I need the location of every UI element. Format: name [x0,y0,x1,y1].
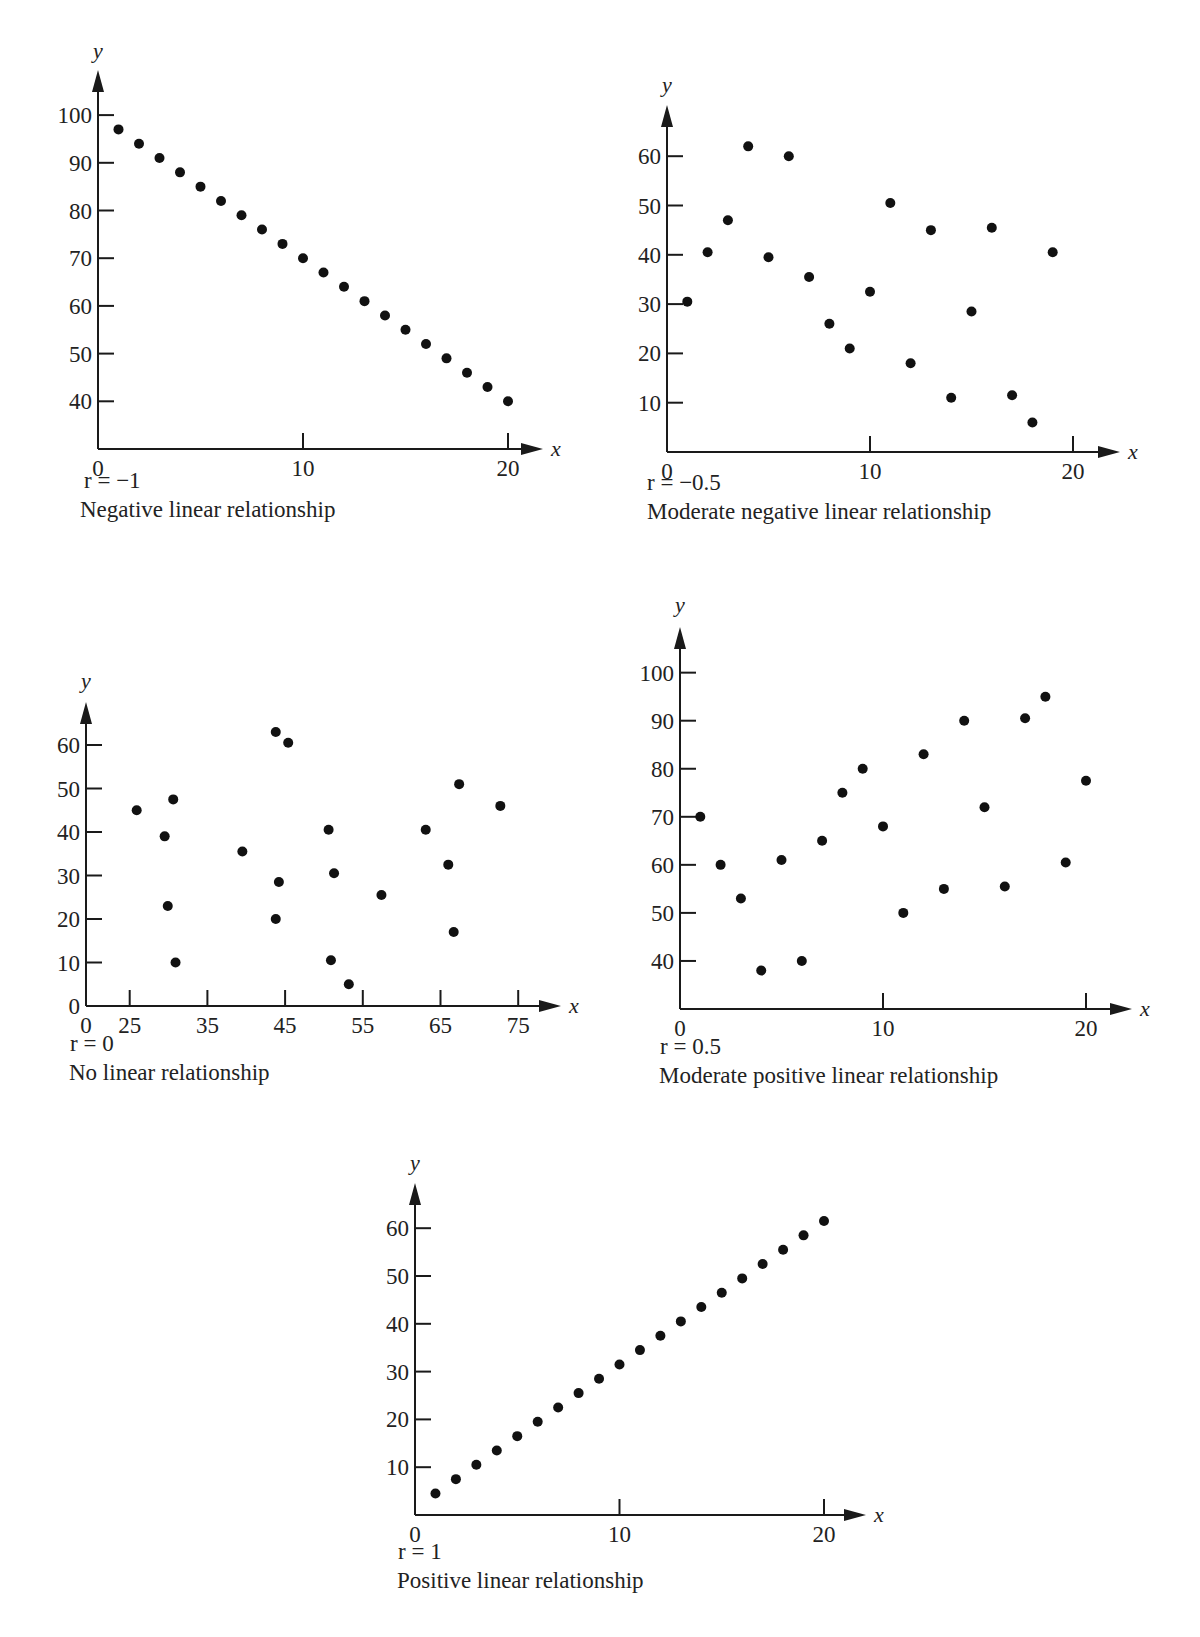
x-axis-arrow-icon [521,443,543,455]
x-axis-label: x [568,993,579,1018]
data-point [926,225,936,235]
data-point [1027,417,1037,427]
data-point [1081,776,1091,786]
data-point [274,877,284,887]
data-point [324,825,334,835]
y-tick-label: 20 [638,341,661,366]
data-point [615,1359,625,1369]
data-point [171,958,181,968]
data-point [443,860,453,870]
data-point [462,368,472,378]
data-point [758,1259,768,1269]
y-axis-arrow-icon [661,105,673,127]
data-point [819,1216,829,1226]
data-point [946,393,956,403]
data-point [421,339,431,349]
y-tick-label: 50 [638,194,661,219]
x-axis-label: x [1127,439,1138,464]
data-point [483,382,493,392]
x-axis-arrow-icon [1110,1003,1132,1015]
chart-2-r-value: r = −0.5 [647,470,721,496]
y-tick-label: 60 [57,733,80,758]
chart-5-r-value: r = 1 [398,1539,442,1565]
y-tick-label: 40 [638,243,661,268]
x-axis-arrow-icon [539,1000,561,1012]
data-point [743,141,753,151]
y-tick-label: 90 [651,709,674,734]
x-axis-label: x [550,436,561,461]
y-tick-label: 30 [638,292,661,317]
chart-4-caption: Moderate positive linear relationship [659,1063,998,1089]
data-point [237,847,247,857]
data-point [283,738,293,748]
data-point [271,727,281,737]
data-point [430,1488,440,1498]
chart-5-caption: Positive linear relationship [397,1568,644,1594]
data-point [777,855,787,865]
y-tick-label: 100 [58,103,93,128]
y-tick-label: 50 [69,342,92,367]
data-point [339,282,349,292]
y-tick-label: 0 [69,994,81,1019]
data-point [495,801,505,811]
scatter-plots-svg: xy40506070809010001020xy1020304050600102… [0,0,1200,1637]
x-tick-label: 25 [118,1013,141,1038]
data-point [168,794,178,804]
y-tick-label: 40 [386,1312,409,1337]
y-tick-label: 40 [57,820,80,845]
y-axis-arrow-icon [80,702,92,724]
data-point [858,764,868,774]
data-point [442,353,452,363]
data-point [155,153,165,163]
data-point [533,1417,543,1427]
data-point [737,1273,747,1283]
data-point [114,124,124,134]
data-point [817,836,827,846]
data-point [216,196,226,206]
x-tick-label: 20 [1062,459,1085,484]
y-tick-label: 10 [386,1455,409,1480]
data-point [959,716,969,726]
x-axis-arrow-icon [1098,446,1120,458]
chart-3-caption: No linear relationship [69,1060,270,1086]
data-point [594,1374,604,1384]
data-point [695,812,705,822]
y-axis-arrow-icon [409,1183,421,1205]
chart-1-r-value: r = −1 [84,468,141,494]
y-tick-label: 50 [57,777,80,802]
x-axis-label: x [1139,996,1150,1021]
data-point [898,908,908,918]
data-point [449,927,459,937]
data-point [676,1316,686,1326]
y-tick-label: 60 [386,1216,409,1241]
data-point [360,296,370,306]
chart-3-r-value: r = 0 [70,1031,114,1057]
data-point [784,151,794,161]
y-axis-arrow-icon [674,627,686,649]
data-point [967,306,977,316]
y-tick-label: 20 [386,1407,409,1432]
y-tick-label: 60 [69,294,92,319]
x-axis-label: x [873,1502,884,1527]
data-point [736,893,746,903]
data-point [723,215,733,225]
data-point [376,890,386,900]
chart-2-caption: Moderate negative linear relationship [647,499,991,525]
data-point [906,358,916,368]
data-point [326,955,336,965]
data-point [1020,713,1030,723]
data-point [845,343,855,353]
data-point [401,325,411,335]
data-point [987,223,997,233]
y-tick-label: 70 [651,805,674,830]
data-point [196,182,206,192]
y-tick-label: 20 [57,907,80,932]
data-point [344,979,354,989]
data-point [237,210,247,220]
data-point [132,805,142,815]
x-tick-label: 10 [292,456,315,481]
scatter-plot-2: xy10203040506001020 [638,72,1138,484]
data-point [778,1245,788,1255]
x-tick-label: 20 [1075,1016,1098,1041]
data-point [454,779,464,789]
